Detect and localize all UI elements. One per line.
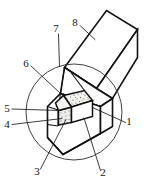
technical-figure: 1 2 3 4 5 6 7 8: [0, 0, 150, 187]
leader-line-7: [59, 34, 60, 67]
callout-label-7: 7: [53, 22, 59, 34]
callout-label-6: 6: [23, 57, 29, 69]
callout-label-3: 3: [34, 165, 40, 177]
diagram-canvas: 1 2 3 4 5 6 7 8: [0, 0, 150, 187]
callout-label-5: 5: [4, 102, 10, 114]
callout-label-1: 1: [126, 115, 132, 127]
callout-label-4: 4: [4, 118, 10, 130]
callout-label-2: 2: [100, 166, 106, 178]
callout-label-8: 8: [72, 16, 78, 28]
